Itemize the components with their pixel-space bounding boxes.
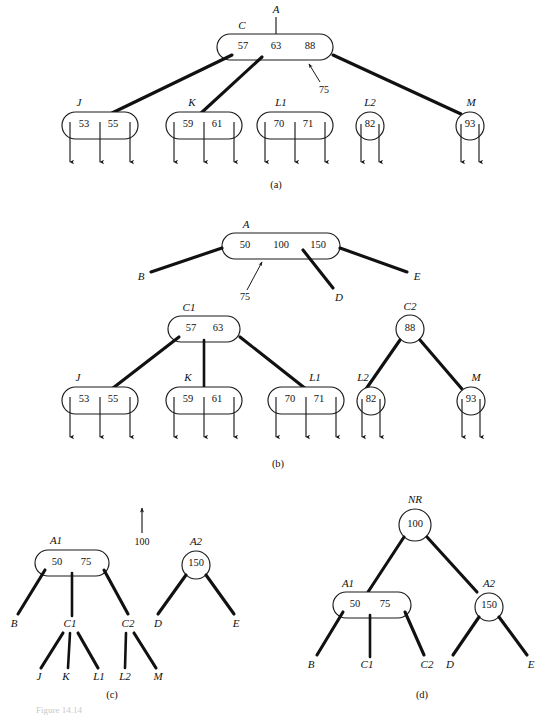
panel-d: 100 NR 50 75 A1 150 A2 B C1 C2 D E (d)	[308, 493, 535, 702]
node-b-L2-value-0: 82	[366, 393, 377, 404]
panel-a-annotation-75: 75	[319, 84, 329, 95]
edge-d-A2-to-D	[453, 617, 479, 655]
edge-c-C2-to-M	[134, 633, 156, 668]
node-b-L1-label: L1	[308, 371, 321, 383]
edge-d-A1-to-B	[317, 612, 343, 655]
node-d-C2-label: C2	[421, 658, 434, 670]
panel-c-caption: (c)	[106, 689, 118, 701]
node-b-C1-value-0: 57	[186, 322, 197, 333]
node-d-A1-value-1: 75	[380, 598, 391, 609]
edge-c-A2-to-D	[158, 575, 186, 614]
edge-c-C1-to-K	[68, 633, 70, 668]
node-K-value-0: 59	[183, 118, 194, 129]
node-J-value-1: 55	[108, 118, 119, 129]
node-c-D-label: D	[153, 617, 162, 629]
edge-c-C1-to-L1	[78, 633, 98, 668]
node-b-A-value-0: 50	[240, 239, 251, 250]
node-c-A2-label: A2	[189, 535, 203, 547]
node-d-C1-label: C1	[361, 658, 374, 670]
node-L1-value-0: 70	[274, 118, 285, 129]
node-b-L2-label: L2	[356, 371, 369, 383]
node-b-J-value-1: 55	[108, 393, 119, 404]
edge-c-C2-to-L2	[125, 633, 126, 668]
node-d-A2-label: A2	[482, 577, 496, 589]
panel-b-annotation-arrow	[247, 262, 262, 290]
edge-c-A1-to-C2	[104, 570, 128, 614]
edge-C2-to-L2	[366, 340, 400, 389]
node-C-value-1: 63	[271, 40, 282, 51]
panel-d-caption: (d)	[416, 689, 429, 701]
node-c-L2-label: L2	[118, 670, 131, 682]
panel-b-annotation-75: 75	[240, 291, 250, 302]
node-b-L1-value-1: 71	[314, 393, 325, 404]
node-b-K-value-0: 59	[183, 393, 194, 404]
node-d-D-label: D	[445, 658, 454, 670]
node-b-A-value-1: 100	[273, 239, 289, 250]
figure-root: A 57 63 88 C 75 53 55 J 59 61 K 70 71	[0, 0, 557, 715]
node-c-B-label: B	[11, 617, 18, 629]
node-c-K-label: K	[61, 670, 70, 682]
node-L1-value-1: 71	[303, 118, 314, 129]
edge-c-C1-to-J	[41, 633, 63, 668]
node-C-value-2: 88	[305, 40, 316, 51]
node-b-J-label: J	[76, 371, 82, 383]
node-L2-value-0: 82	[365, 118, 376, 129]
node-b-J-value-0: 53	[79, 393, 90, 404]
node-b-D-label: D	[334, 291, 343, 303]
node-d-B-label: B	[308, 658, 315, 670]
edge-C-to-M	[333, 55, 461, 114]
edge-A-to-B	[151, 248, 222, 272]
node-c-C1-label: C1	[64, 617, 77, 629]
node-d-A1[interactable]	[333, 592, 411, 618]
panel-c: 100 50 75 A1 150 A2 B C1 C2 J K L1 L2 M …	[11, 508, 240, 701]
node-b-C1-value-1: 63	[213, 322, 224, 333]
btree-split-figure: A 57 63 88 C 75 53 55 J 59 61 K 70 71	[0, 0, 557, 715]
node-b-M-value-0: 93	[466, 393, 477, 404]
node-b-A-label: A	[242, 218, 250, 230]
node-L1-label: L1	[274, 96, 287, 108]
node-d-A1-value-0: 50	[350, 598, 361, 609]
node-c-L1-label: L1	[92, 670, 105, 682]
panel-a: A 57 63 88 C 75 53 55 J 59 61 K 70 71	[62, 3, 484, 192]
node-c-A1-value-0: 50	[52, 556, 63, 567]
node-b-M-label: M	[470, 371, 481, 383]
node-c-J-label: J	[37, 670, 43, 682]
panel-a-label-A: A	[272, 3, 280, 15]
edge-d-NR-to-A2	[427, 537, 477, 592]
edge-d-NR-to-A1	[368, 537, 404, 592]
node-J-label: J	[77, 96, 83, 108]
node-b-K-label: K	[183, 371, 192, 383]
edge-c-A1-to-B	[18, 570, 45, 614]
node-K-value-1: 61	[212, 118, 223, 129]
node-d-A1-label: A1	[341, 577, 354, 589]
node-C-label: C	[238, 19, 246, 31]
node-d-A2-value-0: 150	[481, 599, 497, 610]
edge-C-to-J	[112, 55, 232, 113]
node-K-label: K	[187, 96, 196, 108]
edge-C2-to-M	[420, 340, 462, 389]
node-b-K-value-1: 61	[212, 393, 223, 404]
edge-d-A2-to-E	[499, 617, 527, 655]
edge-C1-to-L1	[240, 337, 306, 389]
node-d-NR-label: NR	[407, 493, 422, 505]
panel-c-promoted-key: 100	[135, 536, 150, 547]
node-b-A-value-2: 150	[310, 239, 326, 250]
node-c-E-label: E	[232, 617, 240, 629]
node-c-A1-value-1: 75	[81, 556, 92, 567]
edge-A-to-E	[340, 248, 407, 272]
node-d-E-label: E	[527, 658, 535, 670]
node-b-B-label: B	[138, 270, 145, 282]
node-d-NR-value-0: 100	[407, 518, 423, 529]
node-b-L1-value-0: 70	[285, 393, 296, 404]
panel-a-caption: (a)	[270, 179, 282, 191]
node-c-A2-value-0: 150	[188, 557, 204, 568]
node-J-value-0: 53	[79, 118, 90, 129]
panel-a-annotation-arrow	[309, 64, 320, 82]
node-C-value-0: 57	[238, 40, 249, 51]
node-b-E-label: E	[413, 270, 421, 282]
node-b-C2-value-0: 88	[405, 322, 416, 333]
node-b-C1-label: C1	[183, 301, 196, 313]
edge-c-A2-to-E	[206, 575, 234, 614]
node-L2-label: L2	[363, 96, 376, 108]
edge-d-A1-to-C2	[405, 612, 424, 655]
